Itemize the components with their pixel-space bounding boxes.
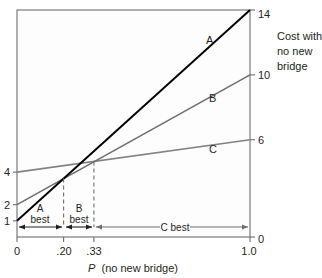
x-tick-label-020: .20 (56, 245, 71, 257)
chart-figure: 4 2 1 14 10 6 0 0 .20 .33 1.0 A B C A (0, 0, 322, 278)
y-tick-label-4: 4 (4, 166, 10, 178)
b-best-label-top: B (76, 203, 83, 214)
x-axis-title-rest: (no new bridge) (101, 262, 177, 274)
curve-label-a: A (206, 34, 214, 46)
curve-label-b: B (209, 92, 216, 104)
x-axis-ticks (17, 237, 250, 242)
b-best-label-bottom: best (70, 214, 89, 225)
y-right-label-6: 6 (258, 134, 264, 146)
right-axis-title-line-3: bridge (277, 60, 308, 72)
y-right-label-0: 0 (258, 233, 264, 245)
y-tick-label-2: 2 (4, 199, 10, 211)
a-best-label-bottom: best (31, 214, 50, 225)
x-axis-title: P (no new bridge) (88, 262, 178, 274)
x-tick-label-0: 0 (14, 245, 20, 257)
x-tick-label-10: 1.0 (241, 245, 256, 257)
right-axis-title-line-2: no new (277, 45, 313, 57)
c-best-label: C best (161, 222, 190, 233)
right-axis-title-line-1: Cost with (277, 30, 322, 42)
x-axis-title-italic: P (88, 262, 96, 274)
x-tick-label-033: .33 (86, 245, 101, 257)
left-axis-ticks (13, 172, 17, 221)
a-best-label-top: A (37, 203, 44, 214)
chart-svg: 4 2 1 14 10 6 0 0 .20 .33 1.0 A B C A (0, 0, 322, 278)
right-axis-ticks (250, 10, 255, 237)
y-tick-label-1: 1 (4, 215, 10, 227)
plot-background (17, 10, 250, 237)
curve-label-c: C (209, 143, 217, 155)
y-right-label-10: 10 (258, 69, 270, 81)
y-right-label-14: 14 (258, 8, 270, 20)
